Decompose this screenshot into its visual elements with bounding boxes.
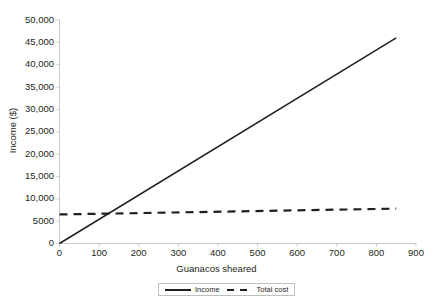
- chart-legend: IncomeTotal cost: [158, 283, 295, 296]
- legend-swatch-dashed-line-icon: [227, 289, 253, 291]
- legend-swatch-solid-line-icon: [165, 289, 191, 291]
- x-axis-tick-label: 400: [198, 247, 238, 258]
- x-axis-tick-label: 300: [158, 247, 198, 258]
- legend-item-total-cost[interactable]: Total cost: [227, 286, 289, 294]
- x-axis-tick-label: 500: [238, 247, 278, 258]
- x-axis-tick-label: 700: [317, 247, 357, 258]
- x-axis-title: Guanacos sheared: [0, 263, 433, 274]
- legend-item-income[interactable]: Income: [165, 286, 220, 294]
- series-line-income: [60, 38, 397, 244]
- legend-label: Total cost: [257, 286, 289, 294]
- data-series-group: [60, 38, 397, 244]
- x-axis-tick-label: 800: [356, 247, 396, 258]
- x-axis-tick-labels: 0100200300400500600700800900: [0, 247, 433, 261]
- series-line-total-cost: [60, 209, 397, 215]
- x-axis-tick-label: 100: [79, 247, 119, 258]
- legend-label: Income: [195, 286, 220, 294]
- x-axis-tick-label: 900: [396, 247, 433, 258]
- chart-container: Income ($) 0500010,00015,00020,00025,000…: [0, 0, 433, 306]
- x-axis-tick-label: 200: [119, 247, 159, 258]
- x-axis-tick-label: 600: [277, 247, 317, 258]
- x-axis-tick-label: 0: [40, 247, 80, 258]
